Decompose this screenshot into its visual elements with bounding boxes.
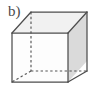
figure-label: b) — [8, 4, 21, 19]
figure-container: b) — [0, 0, 96, 98]
front-face — [12, 33, 68, 82]
